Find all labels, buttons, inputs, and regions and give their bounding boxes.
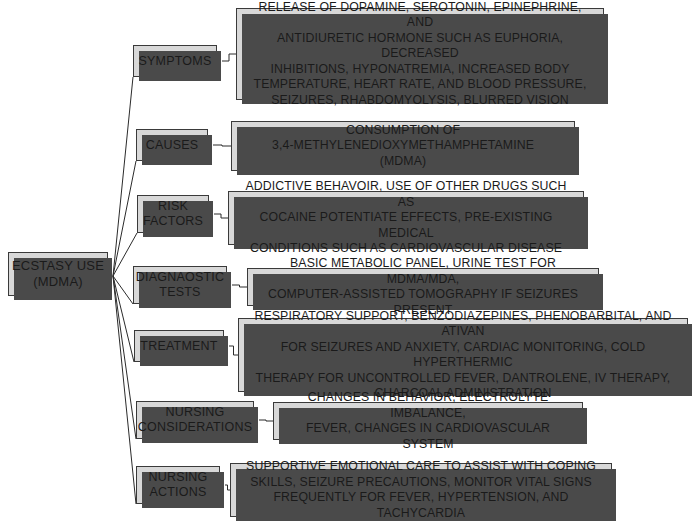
branch-label-nursing-actions-label: NURSING ACTIONS	[137, 470, 219, 500]
branch-label-risk-factors-label: RISK FACTORS	[138, 199, 208, 229]
detail-box-causes: CONSUMPTION OF 3,4-METHYLENEDIOXYMETHAMP…	[231, 121, 575, 171]
detail-box-risk-factors-label: ADDICTIVE BEHAVOIR, USE OF OTHER DRUGS S…	[237, 179, 575, 257]
detail-box-treatment-label: RESPIRATORY SUPPORT, BENZODIAZEPINES, PH…	[247, 309, 679, 402]
root-node-label: ECSTASY USE (MDMA)	[9, 258, 107, 290]
branch-label-nursing-considerations-label: NURSING CONSIDERATIONS	[137, 405, 253, 435]
edge-root-to-causes	[113, 161, 136, 276]
detail-box-symptoms-label: RELEASE OF DOPAMINE, SEROTONIN, EPINEPHR…	[245, 0, 595, 108]
branch-label-treatment-label: TREATMENT	[135, 339, 223, 354]
detail-box-causes-label: CONSUMPTION OF 3,4-METHYLENEDIOXYMETHAMP…	[240, 123, 566, 170]
detail-box-symptoms: RELEASE OF DOPAMINE, SEROTONIN, EPINEPHR…	[236, 8, 604, 100]
branch-label-nursing-actions[interactable]: NURSING ACTIONS	[136, 466, 220, 504]
branch-label-symptoms-label: SYMPTOMS	[134, 54, 216, 69]
detail-box-nursing-actions: SUPPORTIVE EMOTIONAL CARE TO ASSIST WITH…	[230, 463, 612, 517]
branch-label-causes[interactable]: CAUSES	[136, 129, 208, 161]
branch-label-treatment[interactable]: TREATMENT	[134, 330, 224, 362]
detail-box-risk-factors: ADDICTIVE BEHAVOIR, USE OF OTHER DRUGS S…	[228, 191, 584, 245]
detail-box-nursing-considerations-label: CHANGES IN BEHAVIOR, ELECTROLYTE IMBALAN…	[282, 390, 574, 452]
branch-label-diagnostic-tests-label: DIAGNAOSTIC TESTS	[134, 270, 226, 300]
detail-box-nursing-considerations: CHANGES IN BEHAVIOR, ELECTROLYTE IMBALAN…	[273, 402, 583, 440]
detail-box-diagnostic-tests: BASIC METABOLIC PANEL, URINE TEST FOR MD…	[247, 268, 599, 306]
branch-label-symptoms[interactable]: SYMPTOMS	[133, 45, 217, 77]
detail-box-treatment: RESPIRATORY SUPPORT, BENZODIAZEPINES, PH…	[238, 318, 688, 392]
detail-box-nursing-actions-label: SUPPORTIVE EMOTIONAL CARE TO ASSIST WITH…	[239, 459, 603, 521]
edge-root-to-nursing-actions	[113, 276, 136, 504]
branch-label-nursing-considerations[interactable]: NURSING CONSIDERATIONS	[136, 401, 254, 439]
branch-label-causes-label: CAUSES	[137, 138, 207, 153]
root-node[interactable]: ECSTASY USE (MDMA)	[8, 252, 108, 296]
concept-map-diagram: ECSTASY USE (MDMA)SYMPTOMSRELEASE OF DOP…	[0, 0, 696, 526]
branch-label-risk-factors[interactable]: RISK FACTORS	[137, 195, 209, 233]
branch-label-diagnostic-tests[interactable]: DIAGNAOSTIC TESTS	[133, 266, 227, 304]
